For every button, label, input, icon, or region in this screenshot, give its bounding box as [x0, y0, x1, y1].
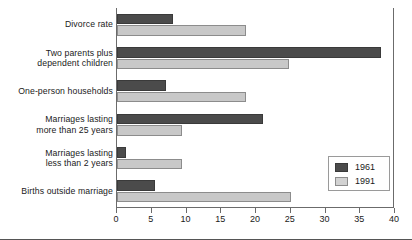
category-label-line: Marriages lasting [1, 114, 113, 125]
legend-label-1961: 1961 [355, 162, 375, 172]
category-label-4: Marriages lastingless than 2 years [1, 148, 113, 169]
category-label-line: One-person households [1, 86, 113, 97]
bar-1961-1 [117, 47, 381, 58]
bar-1991-3 [117, 125, 182, 136]
bar-1961-2 [117, 80, 166, 91]
x-tick-40 [394, 208, 395, 213]
x-tick-label-20: 20 [250, 214, 260, 224]
x-tick-25 [290, 208, 291, 213]
category-label-line: dependent children [1, 58, 113, 69]
category-label-3: Marriages lastingmore than 25 years [1, 114, 113, 135]
x-tick-label-10: 10 [180, 214, 190, 224]
x-tick-10 [186, 208, 187, 213]
x-tick-label-30: 30 [319, 214, 329, 224]
category-label-2: One-person households [1, 86, 113, 97]
bar-1961-5 [117, 180, 155, 191]
category-label-line: more than 25 years [1, 125, 113, 136]
legend-item-1991: 1991 [335, 176, 375, 186]
x-tick-30 [325, 208, 326, 213]
category-label-1: Two parents plusdependent children [1, 48, 113, 69]
category-axis-labels: Divorce rateTwo parents plusdependent ch… [0, 8, 116, 208]
x-tick-15 [220, 208, 221, 213]
category-label-line: Marriages lasting [1, 148, 113, 159]
bar-1961-3 [117, 114, 263, 125]
bar-1991-5 [117, 192, 291, 203]
bar-1961-4 [117, 147, 126, 158]
bar-1991-2 [117, 92, 246, 103]
category-label-line: Births outside marriage [1, 186, 113, 197]
bar-1991-4 [117, 159, 182, 170]
category-label-0: Divorce rate [1, 19, 113, 30]
x-tick-label-5: 5 [148, 214, 153, 224]
bar-chart-figure: Divorce rateTwo parents plusdependent ch… [0, 0, 412, 240]
light-swatch-icon [335, 177, 348, 186]
x-tick-0 [116, 208, 117, 213]
bar-1991-1 [117, 59, 289, 70]
x-axis: 0510152025303540 [116, 208, 394, 234]
legend-item-1961: 1961 [335, 162, 375, 172]
category-label-5: Births outside marriage [1, 186, 113, 197]
bar-1961-0 [117, 14, 173, 25]
x-tick-label-15: 15 [215, 214, 225, 224]
category-label-line: less than 2 years [1, 158, 113, 169]
x-tick-label-25: 25 [285, 214, 295, 224]
chart-legend: 1961 1991 [328, 156, 390, 191]
x-tick-label-0: 0 [113, 214, 118, 224]
x-tick-35 [359, 208, 360, 213]
category-label-line: Two parents plus [1, 48, 113, 59]
bar-1991-0 [117, 25, 246, 36]
x-tick-5 [151, 208, 152, 213]
x-tick-20 [255, 208, 256, 213]
x-tick-label-35: 35 [354, 214, 364, 224]
category-label-line: Divorce rate [1, 19, 113, 30]
dark-swatch-icon [335, 163, 348, 172]
x-tick-label-40: 40 [389, 214, 399, 224]
legend-label-1991: 1991 [355, 176, 375, 186]
